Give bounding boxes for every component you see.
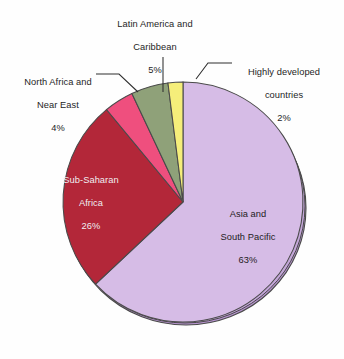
slice-label-highly-developed-countries: Highly developed countries 2%: [228, 56, 340, 136]
slice-label-line1: Asia and: [196, 209, 300, 220]
slice-label-percent: 4%: [2, 123, 114, 134]
slice-label-line1: Latin America and: [96, 19, 214, 30]
slice-label-north-africa-and-near-east: North Africa and Near East 4%: [2, 66, 114, 146]
slice-label-sub-saharan-africa: Sub-Saharan Africa 26%: [38, 164, 144, 244]
slice-label-line1: Sub-Saharan: [38, 175, 144, 186]
slice-label-line2: Near East: [2, 100, 114, 111]
slice-label-line2: Caribbean: [96, 42, 214, 53]
slice-label-line1: North Africa and: [2, 77, 114, 88]
slice-label-line2: South Pacific: [196, 232, 300, 243]
chart-canvas: Latin America and Caribbean 5% Highly de…: [0, 0, 344, 359]
slice-label-line2: countries: [228, 90, 340, 101]
slice-label-percent: 2%: [228, 113, 340, 124]
slice-label-percent: 63%: [196, 255, 300, 266]
slice-label-percent: 26%: [38, 221, 144, 232]
slice-label-line1: Highly developed: [228, 67, 340, 78]
slice-label-asia-and-south-pacific: Asia and South Pacific 63%: [196, 198, 300, 278]
slice-label-line2: Africa: [38, 198, 144, 209]
